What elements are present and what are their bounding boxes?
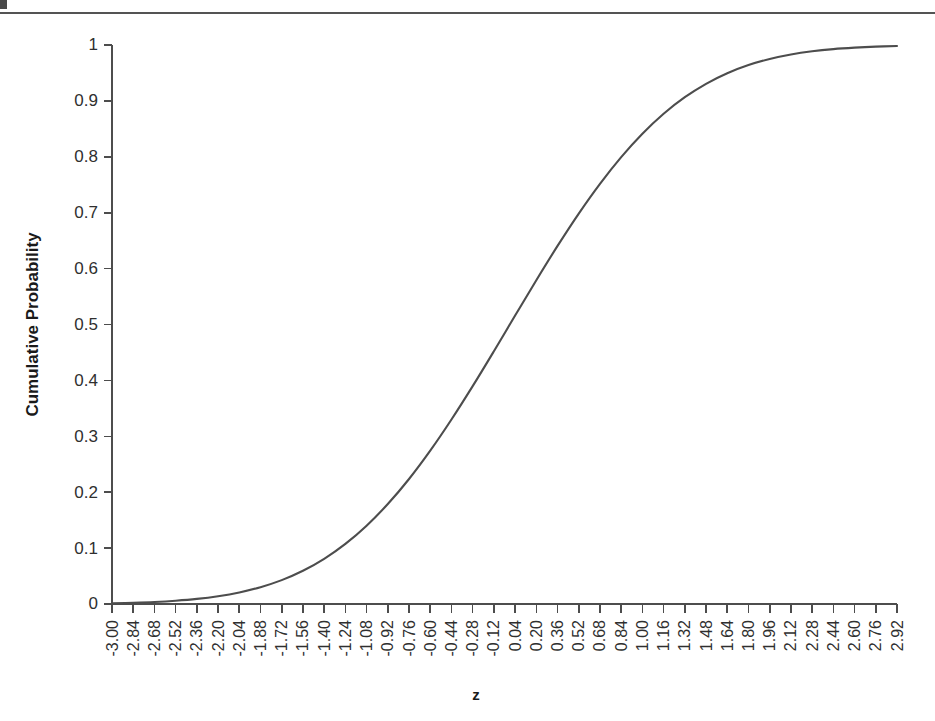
x-axis-tick-label: 2.76 <box>867 620 884 651</box>
x-axis-tick-label: 2.92 <box>889 620 906 651</box>
x-axis-tick-label: 2.28 <box>804 620 821 651</box>
x-axis-tick-label: -1.08 <box>358 620 375 657</box>
y-axis-tick-label: 0.8 <box>74 147 98 166</box>
x-axis-tick-label: -1.72 <box>273 620 290 657</box>
y-axis-title: Cumulative Probability <box>23 232 42 417</box>
x-axis-tick-label: 1.32 <box>676 620 693 651</box>
x-axis-tick-label: 0.84 <box>613 620 630 651</box>
x-axis-tick-label: 2.12 <box>782 620 799 651</box>
x-axis-tick-label: 0.36 <box>549 620 566 651</box>
plot-area: 00.10.20.30.40.50.60.70.80.91-3.00-2.84-… <box>23 35 906 703</box>
x-axis-tick-label: -2.84 <box>125 620 142 657</box>
y-axis-tick-label: 0.5 <box>74 315 98 334</box>
x-axis-tick-label: -1.88 <box>252 620 269 657</box>
x-axis-tick-label: -2.52 <box>167 620 184 657</box>
figure-page: 00.10.20.30.40.50.60.70.80.91-3.00-2.84-… <box>0 0 935 721</box>
x-axis-tick-label: 1.80 <box>740 620 757 651</box>
x-axis-tick-label: -0.60 <box>422 620 439 657</box>
x-axis-tick-label: -0.28 <box>464 620 481 657</box>
x-axis-tick-label: -3.00 <box>104 620 121 657</box>
x-axis-tick-label: -0.44 <box>443 620 460 657</box>
x-axis-tick-label: -0.76 <box>401 620 418 657</box>
y-axis-tick-label: 1 <box>89 35 98 54</box>
x-axis-tick-label: 0.68 <box>591 620 608 651</box>
x-axis-tick-label: 1.96 <box>761 620 778 651</box>
x-axis-tick-label: 1.16 <box>655 620 672 651</box>
y-axis-tick-label: 0.1 <box>74 539 98 558</box>
x-axis-tick-label: 1.48 <box>698 620 715 651</box>
x-axis-tick-label: -2.68 <box>146 620 163 657</box>
x-axis-title: z <box>472 686 480 703</box>
x-axis-tick-label: -2.04 <box>231 620 248 657</box>
y-axis-tick-label: 0.2 <box>74 483 98 502</box>
y-axis-tick-label: 0.6 <box>74 259 98 278</box>
x-axis-tick-label: -2.36 <box>188 620 205 657</box>
x-axis-tick-label: -2.20 <box>210 620 227 657</box>
x-axis-tick-label: 0.52 <box>570 620 587 651</box>
y-axis-tick-label: 0.7 <box>74 203 98 222</box>
x-axis-tick-label: 0.04 <box>507 620 524 651</box>
y-axis-tick-label: 0.4 <box>74 371 98 390</box>
x-axis-tick-label: -1.40 <box>316 620 333 657</box>
y-axis-tick-label: 0 <box>89 594 98 613</box>
x-axis-tick-label: 2.60 <box>846 620 863 651</box>
x-axis-tick-label: -1.56 <box>294 620 311 657</box>
x-axis-tick-label: 0.20 <box>528 620 545 651</box>
x-axis-tick-label: 1.00 <box>634 620 651 651</box>
cumulative-probability-curve <box>112 46 897 603</box>
x-axis-tick-label: 1.64 <box>719 620 736 651</box>
y-axis-tick-label: 0.3 <box>74 427 98 446</box>
cumulative-probability-chart: 00.10.20.30.40.50.60.70.80.91-3.00-2.84-… <box>0 0 935 721</box>
x-axis-tick-label: 2.44 <box>825 620 842 651</box>
x-axis-tick-label: -0.92 <box>379 620 396 657</box>
x-axis-tick-label: -0.12 <box>485 620 502 657</box>
x-axis-tick-label: -1.24 <box>337 620 354 657</box>
y-axis-tick-label: 0.9 <box>74 91 98 110</box>
